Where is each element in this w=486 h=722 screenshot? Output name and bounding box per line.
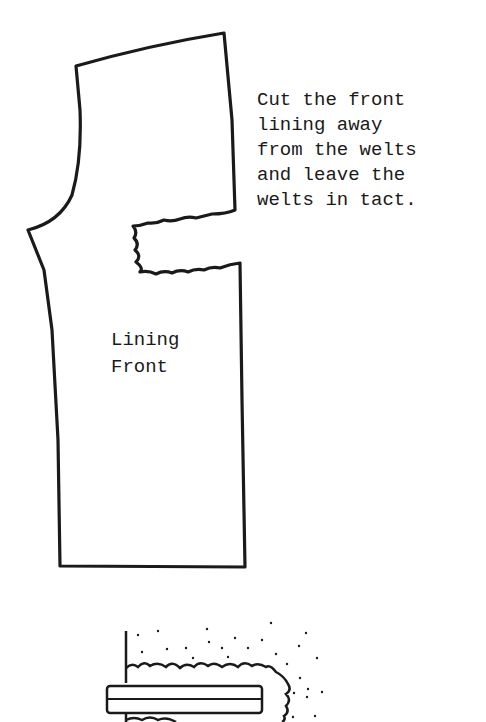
- instruction-line: lining away: [257, 113, 417, 138]
- instruction-text: Cut the frontlining awayfrom the weltsan…: [257, 88, 417, 213]
- instruction-line: from the welts: [257, 138, 417, 163]
- label-line: Lining: [111, 327, 179, 354]
- instruction-line: Cut the front: [257, 88, 417, 113]
- pattern-piece-label: LiningFront: [111, 327, 179, 381]
- welt-detail: [107, 622, 323, 722]
- instruction-line: welts in tact.: [257, 188, 417, 213]
- label-line: Front: [111, 354, 179, 381]
- instruction-line: and leave the: [257, 163, 417, 188]
- lining-front-outline: [28, 33, 245, 567]
